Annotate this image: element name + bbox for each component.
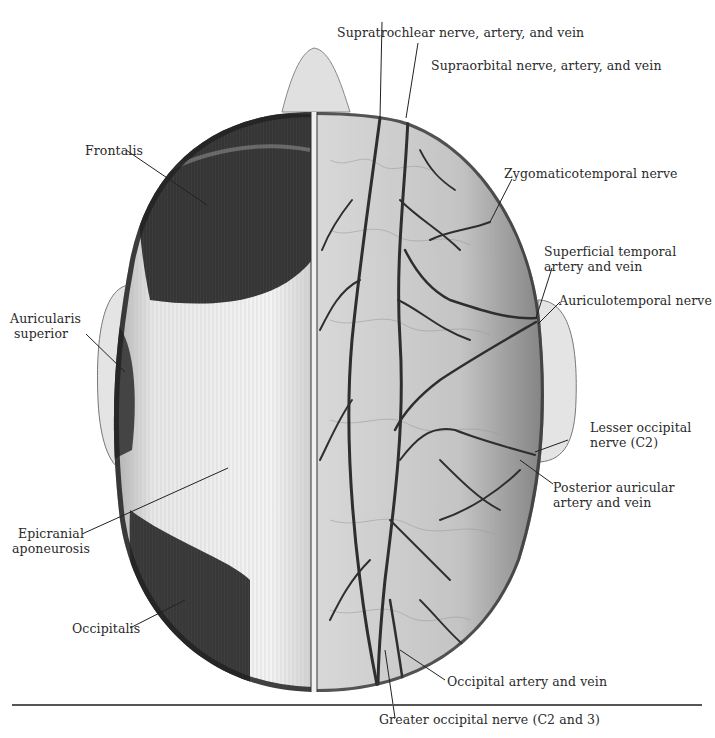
label-superficial-temporal: Superficial temporal artery and vein [544,244,676,274]
label-posterior-auricular: Posterior auricular artery and vein [553,480,675,510]
label-zygomaticotemporal: Zygomaticotemporal nerve [504,166,678,181]
label-frontalis: Frontalis [85,143,143,158]
midline-divider [311,110,317,694]
label-auricularis-line2: superior [10,326,85,341]
label-greater-occipital: Greater occipital nerve (C2 and 3) [379,712,600,727]
label-epicranial-aponeurosis: Epicranial aponeurosis [12,526,84,556]
label-epicranial-line2: aponeurosis [12,541,84,556]
label-lesser-occipital-line2: nerve (C2) [590,435,691,450]
label-superficial-temporal-line1: Superficial temporal [544,244,676,259]
label-auricularis-line1: Auricularis [10,311,85,326]
label-lesser-occipital: Lesser occipital nerve (C2) [590,420,691,450]
label-occipitalis: Occipitalis [72,621,140,636]
label-occipital-artery: Occipital artery and vein [447,674,607,689]
label-posterior-auricular-line1: Posterior auricular [553,480,675,495]
label-lesser-occipital-line1: Lesser occipital [590,420,691,435]
label-superficial-temporal-line2: artery and vein [544,259,676,274]
label-epicranial-line1: Epicranial [12,526,84,541]
label-posterior-auricular-line2: artery and vein [553,495,675,510]
label-supratrochlear: Supratrochlear nerve, artery, and vein [337,25,584,40]
label-supraorbital: Supraorbital nerve, artery, and vein [431,58,662,73]
label-auricularis-superior: Auricularis superior [10,311,85,341]
nose-shape [282,48,350,112]
label-auriculotemporal: Auriculotemporal nerve [559,293,712,308]
bottom-rule [12,704,702,706]
